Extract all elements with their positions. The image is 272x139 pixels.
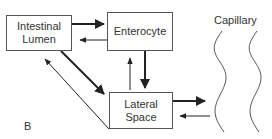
node-label-line2: Lumen xyxy=(22,33,56,46)
arrow-lateral-to-lumen xyxy=(45,59,109,129)
capillary-wall-right xyxy=(249,31,261,132)
node-lateral-space: Lateral Space xyxy=(109,92,173,129)
node-intestinal-lumen: Intestinal Lumen xyxy=(6,15,72,51)
capillary-label: Capillary xyxy=(214,14,257,26)
node-label-line1: Lateral xyxy=(124,98,158,111)
node-label-line2: Space xyxy=(125,111,156,124)
panel-label: B xyxy=(24,120,31,132)
arrow-lumen-to-lateral xyxy=(61,51,104,94)
capillary-wall-left xyxy=(214,31,226,132)
node-enterocyte: Enterocyte xyxy=(107,12,173,51)
node-label-line1: Intestinal xyxy=(17,20,61,33)
node-label: Enterocyte xyxy=(114,25,167,38)
